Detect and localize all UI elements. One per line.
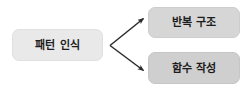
flow-diagram: 패턴 인식 반복 구조 함수 작성 [0,0,249,91]
node-label: 함수 작성 [172,63,217,74]
edge-source-to-top-line [110,19,144,46]
node-function-writing[interactable]: 함수 작성 [148,52,240,84]
node-pattern-recognition[interactable]: 패턴 인식 [12,29,103,61]
node-label: 반복 구조 [172,17,217,28]
edge-source-to-bottom-line [110,46,144,71]
node-label: 패턴 인식 [35,40,80,51]
node-repetition-structure[interactable]: 반복 구조 [148,7,240,38]
